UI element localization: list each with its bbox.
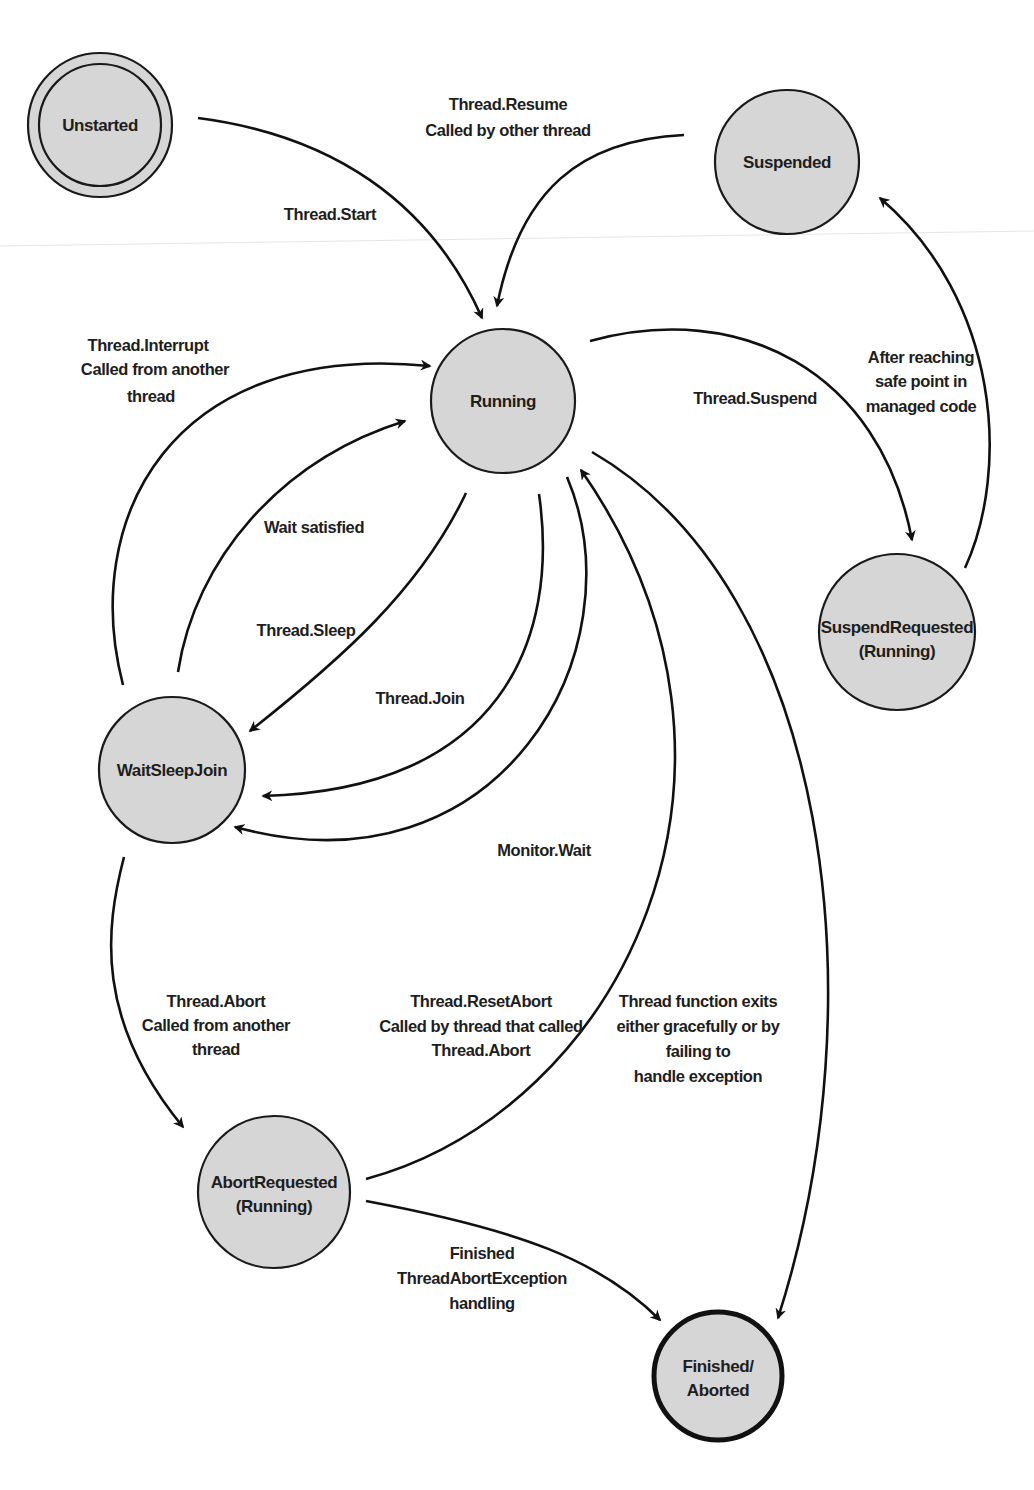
label-thread-exits-1: Thread function exits bbox=[619, 992, 778, 1010]
label-thread-join: Thread.Join bbox=[375, 689, 464, 707]
node-finished-aborted-label-1: Finished/ bbox=[682, 1357, 754, 1376]
node-wait-sleep-join-label: WaitSleepJoin bbox=[117, 761, 227, 780]
label-thread-interrupt-1: Thread.Interrupt bbox=[87, 336, 209, 354]
label-thread-abort-2: Called from another bbox=[142, 1016, 291, 1034]
label-thread-resetabort-1: Thread.ResetAbort bbox=[410, 992, 553, 1010]
node-abort-requested-label-1: AbortRequested bbox=[211, 1173, 338, 1192]
node-suspend-requested[interactable]: SuspendRequested (Running) bbox=[819, 554, 975, 710]
node-suspend-requested-label-2: (Running) bbox=[859, 642, 936, 661]
label-thread-abort-3: thread bbox=[192, 1040, 240, 1058]
label-abort-finished-1: Finished bbox=[450, 1244, 515, 1262]
label-thread-resume-2: Called by other thread bbox=[425, 121, 590, 139]
label-thread-exits-2: either gracefully or by bbox=[616, 1017, 780, 1035]
node-finished-aborted-label-2: Aborted bbox=[687, 1381, 749, 1400]
node-suspend-requested-label-1: SuspendRequested bbox=[821, 618, 973, 637]
node-abort-requested-circle bbox=[198, 1116, 350, 1268]
node-finished-aborted[interactable]: Finished/ Aborted bbox=[654, 1312, 782, 1440]
label-thread-resetabort-3: Thread.Abort bbox=[432, 1041, 532, 1059]
label-thread-sleep: Thread.Sleep bbox=[257, 621, 356, 639]
label-thread-abort-1: Thread.Abort bbox=[167, 992, 267, 1010]
thread-state-diagram: Unstarted Suspended Running SuspendReque… bbox=[0, 0, 1034, 1490]
label-monitor-wait: Monitor.Wait bbox=[497, 841, 591, 859]
node-suspended[interactable]: Suspended bbox=[715, 90, 859, 234]
node-abort-requested-label-2: (Running) bbox=[236, 1197, 313, 1216]
label-thread-exits-4: handle exception bbox=[634, 1067, 763, 1085]
edge-thread-suspend bbox=[590, 330, 912, 540]
node-unstarted-label: Unstarted bbox=[62, 116, 138, 135]
label-thread-interrupt-2: Called from another bbox=[81, 360, 230, 378]
label-wait-satisfied: Wait satisfied bbox=[264, 518, 364, 536]
label-abort-finished-3: handling bbox=[449, 1294, 515, 1312]
node-unstarted[interactable]: Unstarted bbox=[28, 53, 172, 197]
node-running[interactable]: Running bbox=[431, 329, 575, 473]
label-safe-point-3: managed code bbox=[866, 397, 977, 415]
node-abort-requested[interactable]: AbortRequested (Running) bbox=[198, 1116, 350, 1268]
label-thread-exits-3: failing to bbox=[666, 1042, 731, 1060]
edge-thread-resume bbox=[497, 135, 684, 306]
node-wait-sleep-join[interactable]: WaitSleepJoin bbox=[99, 697, 245, 843]
label-thread-suspend: Thread.Suspend bbox=[693, 389, 817, 407]
node-finished-aborted-circle bbox=[654, 1312, 782, 1440]
label-safe-point-1: After reaching bbox=[868, 348, 974, 366]
edge-thread-join bbox=[263, 494, 543, 796]
edge-thread-exits bbox=[592, 452, 828, 1318]
label-thread-interrupt-3: thread bbox=[127, 387, 175, 405]
node-suspended-label: Suspended bbox=[743, 153, 831, 172]
label-thread-resume-1: Thread.Resume bbox=[449, 95, 568, 113]
label-thread-start: Thread.Start bbox=[284, 205, 377, 223]
node-running-label: Running bbox=[470, 392, 536, 411]
label-thread-resetabort-2: Called by thread that called bbox=[379, 1017, 582, 1035]
label-abort-finished-2: ThreadAbortException bbox=[397, 1269, 567, 1287]
label-safe-point-2: safe point in bbox=[875, 372, 967, 390]
